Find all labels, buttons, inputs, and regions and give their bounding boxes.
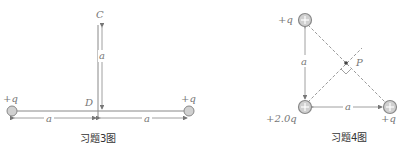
- charge-right-icon: [184, 106, 194, 116]
- point-p-dot: [344, 61, 348, 65]
- label-p: P: [355, 57, 363, 68]
- label-c: C: [96, 9, 104, 20]
- charge-left-icon: [7, 106, 17, 116]
- charge-top-icon: [299, 14, 312, 27]
- dashed-perpendicular: [308, 48, 362, 102]
- charge-bottom-left-icon: [299, 101, 312, 114]
- figure-3: C a +q +q D a a 习题3图: [3, 9, 196, 144]
- dim-horizontal-a: a: [345, 101, 351, 112]
- dim-left-a: a: [46, 113, 52, 124]
- dim-right-a: a: [144, 113, 150, 124]
- label-charge-top: +q: [278, 14, 293, 25]
- label-charge-bottom-left: +2.0q: [266, 113, 297, 124]
- charge-bottom-right-icon: [384, 101, 397, 114]
- diagram-canvas: C a +q +q D a a 习题3图 P a a: [0, 0, 404, 148]
- label-charge-left: +q: [3, 93, 18, 104]
- caption-figure-3: 习题3图: [80, 133, 116, 144]
- dim-vertical-a: a: [301, 56, 307, 67]
- label-d: D: [84, 97, 93, 108]
- dim-vertical-a: a: [99, 50, 105, 61]
- label-charge-bottom-right: +q: [381, 113, 396, 124]
- figure-4: P a a +q +2.0q +q 习题4图: [266, 14, 397, 144]
- right-angle-mark: [341, 69, 351, 74]
- label-charge-right: +q: [181, 93, 196, 104]
- caption-figure-4: 习题4图: [331, 132, 367, 143]
